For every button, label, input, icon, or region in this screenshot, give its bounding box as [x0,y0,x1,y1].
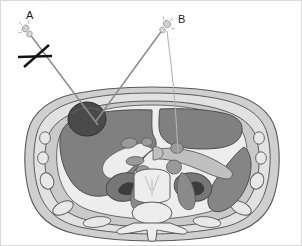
liver-lesion [68,102,106,136]
rib-segment [256,152,267,164]
aorta-branch [171,143,184,154]
spinal-canal [132,202,172,224]
vessel-hepatic-artery [142,138,153,146]
stomach [159,109,242,149]
cross-section-drawing: A B [1,1,302,246]
probe-label-a: A [26,9,34,21]
cross-mark-path-a [18,45,52,67]
rib-segment [40,132,51,144]
needle-hub-a [18,20,33,38]
aorta [167,160,182,174]
rib-segment [38,152,49,164]
probe-label-b: B [178,13,185,25]
rib-segment [254,132,265,144]
medical-illustration-figure: A B [0,0,302,246]
